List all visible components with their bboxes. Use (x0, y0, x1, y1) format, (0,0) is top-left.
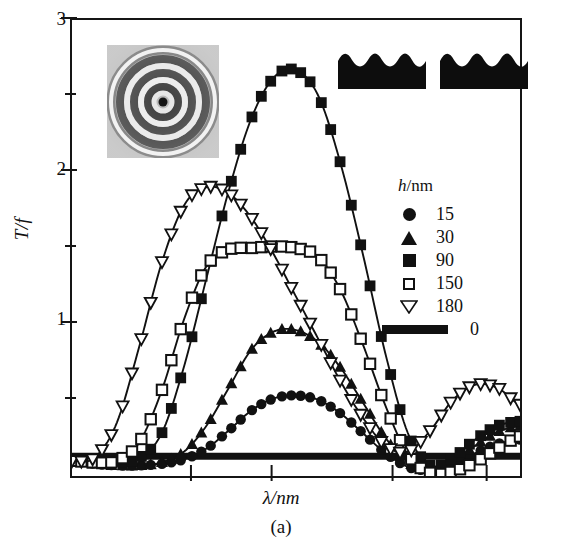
legend-item-90: 90 (392, 249, 508, 272)
legend: h/nm 15 30 90 150 180 0 (392, 176, 508, 341)
thick-line-icon (392, 325, 468, 334)
legend-title-symbol: h (398, 176, 407, 195)
legend-label-15: 15 (436, 204, 454, 225)
open-square-icon (392, 278, 426, 290)
legend-label-90: 90 (436, 250, 454, 271)
corrugated-grating-profile-left (338, 47, 426, 91)
legend-label-0: 0 (470, 319, 479, 340)
legend-title: h/nm (398, 176, 508, 196)
open-triangle-down-icon (392, 299, 426, 314)
legend-label-150: 150 (436, 273, 463, 294)
x-axis-title: λ/nm (0, 487, 562, 509)
y-axis-labels: 3 2 1 (34, 0, 66, 478)
legend-item-180: 180 (392, 295, 508, 318)
legend-item-15: 15 (392, 203, 508, 226)
filled-circle-icon (392, 208, 426, 221)
corrugated-grating-profile-right (440, 47, 528, 91)
legend-item-0: 0 (392, 318, 508, 341)
figure-caption: (a) (0, 516, 562, 538)
legend-item-30: 30 (392, 226, 508, 249)
filled-square-icon (392, 254, 426, 267)
legend-label-180: 180 (436, 296, 463, 317)
figure-panel: 3 2 1 T/f λ/nm (a) h/nm 15 30 90 150 (0, 0, 562, 555)
legend-label-30: 30 (436, 227, 454, 248)
y-axis-title: T/f (11, 189, 33, 269)
legend-item-150: 150 (392, 272, 508, 295)
y-tick-label-1: 1 (42, 309, 66, 328)
filled-triangle-up-icon (392, 231, 426, 245)
concentric-rings-inset (107, 45, 219, 158)
y-tick-label-2: 2 (42, 159, 66, 178)
legend-title-unit: /nm (407, 176, 433, 195)
y-tick-label-3: 3 (42, 9, 66, 28)
